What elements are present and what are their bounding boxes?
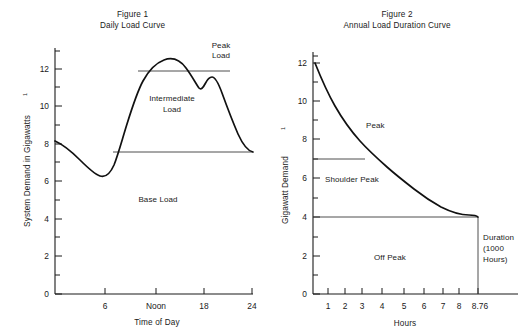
- annotation-duration-fig2: Duration (1000 Hours): [483, 233, 514, 264]
- y-axis-title-fig1: System Demand in Gigawatts: [23, 115, 32, 227]
- x-tick-label-2-fig2: 2: [343, 301, 348, 311]
- load-duration-curve: [315, 63, 478, 217]
- base-load-label: Base Load: [138, 195, 177, 204]
- y-axis-title-group-fig1: System Demand in Gigawatts 1: [22, 93, 32, 227]
- annotation-base-load-fig1: Base Load: [138, 195, 177, 204]
- off-peak-label-fig2: Off Peak: [374, 253, 407, 262]
- peak-label-fig2: Peak: [366, 121, 386, 130]
- y-tick-label-2-fig1: 2: [44, 251, 49, 261]
- annotation-peak-load-fig1: Peak Load: [212, 41, 232, 60]
- y-tick-label-8-fig1: 8: [44, 139, 49, 149]
- y-tick-label-12-fig2: 12: [298, 58, 308, 68]
- x-tick-label-4-fig2: 4: [380, 301, 385, 311]
- x-tick-label-1-fig2: 1: [326, 301, 331, 311]
- y-major-ticks-fig2: [313, 63, 320, 294]
- duration-label-line2: (1000: [483, 244, 504, 253]
- figure-2-annual-load-duration-curve: Figure 2 Annual Load Duration Curve: [265, 0, 529, 336]
- x-axis-title-fig1: Time of Day: [134, 318, 180, 327]
- x-tick-label-8-fig2: 8: [457, 301, 462, 311]
- y-minor-ticks-fig2: [313, 56, 318, 275]
- figure-1-daily-load-curve: Figure 1 Daily Load Curve 0 2: [0, 0, 265, 336]
- intermediate-load-label-line2: Load: [163, 105, 181, 114]
- figure-1-plot: 0 2 4 6 8 10 12 6 Noon 18 24 System Dema…: [0, 0, 265, 336]
- y-tick-label-12-fig1: 12: [40, 64, 50, 74]
- y-tick-label-8-fig2: 8: [302, 134, 307, 144]
- y-tick-label-6-fig2: 6: [302, 173, 307, 183]
- y-axis-title-group-fig2: Gigawatt Demand 1: [280, 127, 290, 224]
- y-tick-label-4-fig2: 4: [302, 212, 307, 222]
- x-ticks-fig1: [105, 288, 252, 294]
- x-tick-label-noon-fig1: Noon: [146, 301, 166, 311]
- y-tick-label-0-fig1: 0: [44, 289, 49, 299]
- y-tick-label-6-fig1: 6: [44, 176, 49, 186]
- y-tick-label-0-fig2: 0: [302, 289, 307, 299]
- duration-label-line1: Duration: [483, 233, 514, 242]
- peak-load-label-line2: Load: [212, 51, 230, 60]
- y-minor-ticks-fig1: [55, 51, 60, 275]
- x-tick-label-6-fig2: 6: [422, 301, 427, 311]
- y-major-ticks-fig1: [55, 69, 62, 294]
- annotation-intermediate-load-fig1: Intermediate Load: [149, 94, 195, 114]
- x-tick-label-18-fig1: 18: [199, 301, 209, 311]
- shoulder-peak-label-fig2: Shoulder Peak: [325, 175, 380, 184]
- daily-load-curve: [55, 59, 253, 177]
- x-tick-label-876-fig2: 8.76: [472, 301, 489, 311]
- y-tick-label-4-fig1: 4: [44, 214, 49, 224]
- y-axis-title-superscript-fig1: 1: [22, 93, 28, 96]
- x-tick-label-5-fig2: 5: [402, 301, 407, 311]
- peak-load-label-line1: Peak: [212, 41, 232, 50]
- x-ticks-fig2: [328, 288, 478, 294]
- figure-2-plot: 0 2 4 6 8 10 12 1 2 3 4 5 6 7 8 8.76 Gig…: [265, 0, 529, 336]
- x-axis-title-fig2: Hours: [394, 319, 417, 328]
- x-tick-label-7-fig2: 7: [441, 301, 446, 311]
- x-tick-label-24-fig1: 24: [247, 301, 257, 311]
- y-tick-label-10-fig1: 10: [40, 101, 50, 111]
- y-tick-label-2-fig2: 2: [302, 251, 307, 261]
- x-tick-label-6-fig1: 6: [103, 301, 108, 311]
- y-tick-label-10-fig2: 10: [298, 96, 308, 106]
- y-axis-title-superscript-fig2: 1: [280, 127, 286, 130]
- x-tick-label-3-fig2: 3: [360, 301, 365, 311]
- y-axis-title-fig2: Gigawatt Demand: [281, 156, 290, 224]
- duration-label-line3: Hours): [483, 255, 508, 264]
- intermediate-load-label-line1: Intermediate: [149, 94, 195, 103]
